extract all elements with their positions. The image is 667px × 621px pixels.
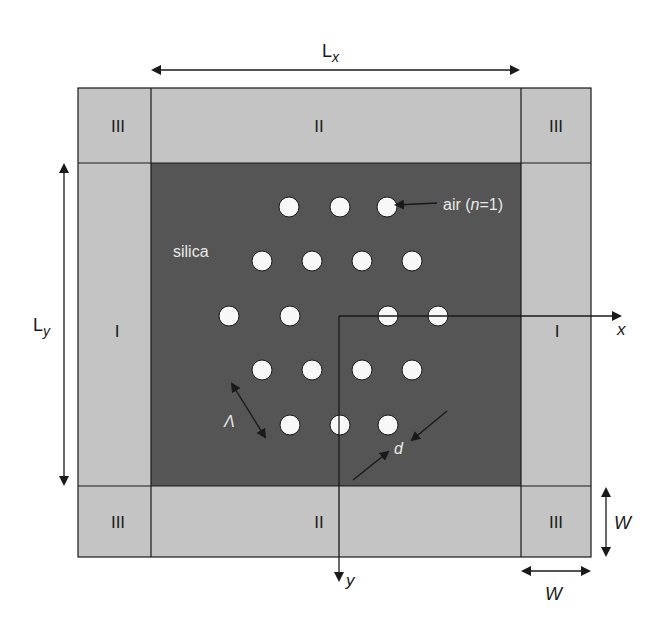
diameter-label: d [394,440,404,457]
region-label-II-top: II [314,117,323,136]
air-hole [252,251,272,271]
air-hole [280,415,300,435]
lx-label: Lx [322,41,340,65]
air-hole [279,197,299,217]
air-hole [219,306,239,326]
air-hole [302,360,322,380]
air-hole [402,251,422,271]
air-hole [352,360,372,380]
region-label-III-top-right: III [549,117,563,136]
air-hole [252,360,272,380]
ly-label: Ly [33,315,51,339]
air-hole [402,360,422,380]
region-label-II-bottom: II [314,513,323,532]
air-hole [280,306,300,326]
pitch-label: Λ [223,413,235,430]
x-axis-label: x [616,320,626,339]
y-axis-label: y [345,571,356,590]
w-vertical-label: W [614,513,633,533]
region-label-I-left: I [115,322,120,341]
region-label-III-bottom-right: III [549,513,563,532]
w-horizontal-label: W [545,584,564,604]
region-label-III-bottom-left: III [111,513,125,532]
air-hole [330,197,350,217]
air-hole [330,415,350,435]
air-label: air (n=1) [443,196,503,213]
region-label-III-top-left: III [111,117,125,136]
pcf-diagram: III II III I I III II III silica air (n=… [0,0,667,621]
air-hole [378,415,398,435]
air-hole [377,197,397,217]
region-label-I-right: I [555,322,560,341]
air-hole [302,251,322,271]
air-hole [352,251,372,271]
silica-label: silica [173,243,209,260]
